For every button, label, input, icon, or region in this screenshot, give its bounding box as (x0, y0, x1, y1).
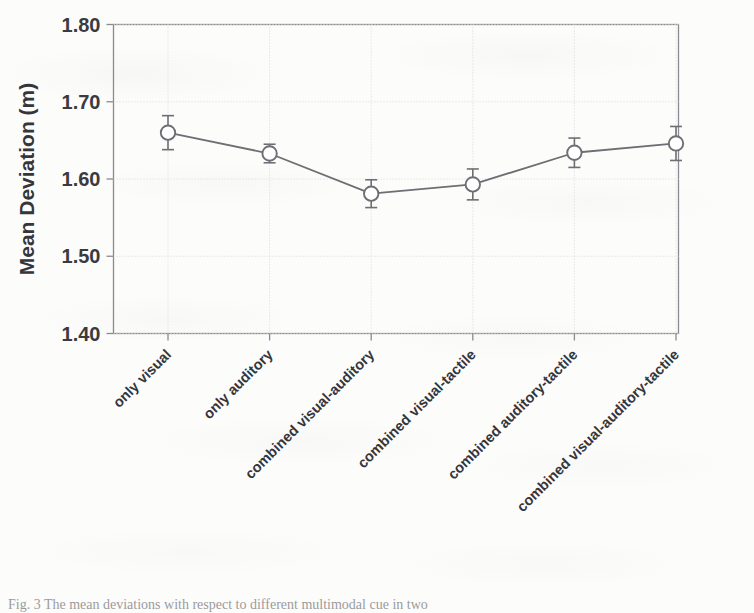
data-point-marker (669, 136, 683, 150)
x-tick-label: combined visual-auditory-tactile (514, 346, 683, 515)
data-point-group (262, 144, 276, 163)
data-point-marker (262, 146, 276, 160)
x-tick-label: only visual (110, 346, 174, 410)
data-point-group (466, 169, 480, 200)
y-axis-title: Mean Deviation (m) (15, 83, 38, 276)
data-point-marker (466, 177, 480, 191)
figure-caption: Fig. 3 The mean deviations with respect … (8, 597, 428, 612)
x-tick-label: combined visual-tactile (354, 346, 479, 471)
data-point-marker (567, 146, 581, 160)
x-tick-label: only auditory (200, 346, 276, 422)
y-tick-label: 1.60 (62, 168, 101, 190)
data-line (168, 133, 676, 194)
y-tick-label: 1.40 (62, 323, 101, 345)
y-tick-label: 1.50 (62, 245, 101, 267)
data-point-marker (161, 125, 175, 139)
data-point-group (567, 138, 581, 167)
y-tick-label: 1.80 (62, 14, 101, 36)
line-chart: 1.401.501.601.701.80Mean Deviation (m)on… (0, 0, 754, 613)
data-point-group (161, 116, 175, 150)
data-point-marker (364, 186, 378, 200)
figure-page: 1.401.501.601.701.80Mean Deviation (m)on… (0, 0, 754, 613)
data-point-group (364, 180, 378, 208)
y-tick-label: 1.70 (62, 91, 101, 113)
data-point-group (669, 126, 683, 160)
